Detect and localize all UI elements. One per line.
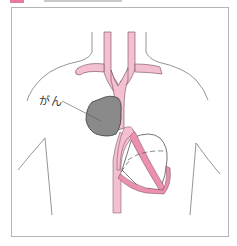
heart bbox=[117, 127, 171, 194]
chest-anatomy-diagram bbox=[0, 0, 237, 246]
tumor-label: がん bbox=[39, 96, 63, 107]
left-subclavian-artery bbox=[135, 64, 162, 74]
right-subclavian-artery bbox=[75, 64, 104, 76]
tumor bbox=[62, 96, 121, 136]
